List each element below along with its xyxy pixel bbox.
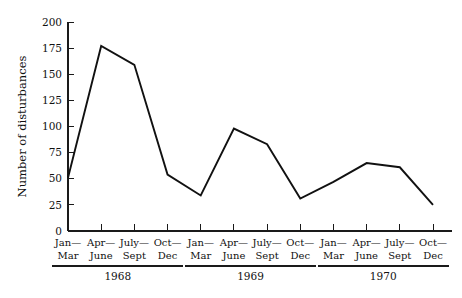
- x-tick-label-bottom: June: [89, 250, 113, 261]
- x-tick-label-bottom: Mar: [190, 250, 211, 261]
- x-tick-label-top: Apr—: [351, 237, 380, 248]
- x-tick-label-top: Oct—: [286, 237, 314, 248]
- y-axis-title: Number of disturbances: [15, 56, 29, 198]
- y-tick-label: 175: [42, 42, 62, 54]
- x-tick-label-bottom: Mar: [58, 250, 79, 261]
- y-tick-label: 50: [49, 172, 62, 184]
- y-tick-label: 100: [42, 120, 62, 132]
- y-tick-label: 25: [49, 199, 62, 211]
- x-tick-label-bottom: Sept: [388, 250, 411, 261]
- x-tick-label-bottom: Mar: [323, 250, 344, 261]
- x-tick-label-bottom: Dec: [158, 250, 178, 261]
- year-group-label: 1968: [104, 270, 131, 282]
- year-group-label: 1970: [370, 270, 397, 282]
- y-tick-label: 125: [42, 94, 62, 106]
- x-tick-label-top: July—: [119, 237, 149, 248]
- x-tick-label-bottom: June: [354, 250, 378, 261]
- x-tick-label-top: Oct—: [154, 237, 182, 248]
- x-tick-label-top: Apr—: [86, 237, 115, 248]
- x-tick-label-bottom: June: [222, 250, 246, 261]
- y-tick-label: 0: [55, 225, 62, 237]
- x-tick-label-bottom: Sept: [123, 250, 146, 261]
- line-chart: 0255075100125150175200 Jan—MarApr—JuneJu…: [0, 0, 462, 298]
- y-axis-title-text: Number of disturbances: [15, 56, 29, 198]
- x-tick-label-top: Oct—: [419, 237, 447, 248]
- y-tick-label: 75: [49, 146, 62, 158]
- x-tick-label-top: July—: [384, 237, 414, 248]
- y-tick-label: 150: [42, 68, 62, 80]
- x-tick-label-top: Apr—: [219, 237, 248, 248]
- x-tick-label-bottom: Dec: [423, 250, 443, 261]
- year-group-label: 1969: [237, 270, 264, 282]
- y-tick-label: 200: [42, 16, 62, 28]
- x-tick-label-top: Jan—: [187, 237, 214, 248]
- chart-container: 0255075100125150175200 Jan—MarApr—JuneJu…: [0, 0, 462, 298]
- x-tick-label-bottom: Dec: [290, 250, 310, 261]
- x-tick-label-top: Jan—: [319, 237, 346, 248]
- x-tick-label-top: Jan—: [54, 237, 81, 248]
- x-tick-label-bottom: Sept: [255, 250, 278, 261]
- x-tick-label-top: July—: [251, 237, 281, 248]
